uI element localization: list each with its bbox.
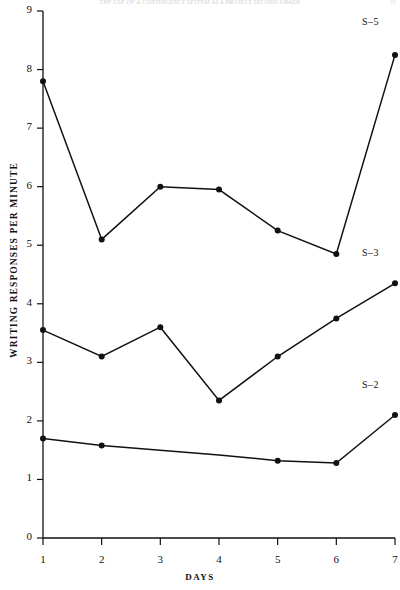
y-tick-label-3: 3 xyxy=(14,354,32,366)
data-point-S-3-day-7 xyxy=(392,280,398,286)
y-tick-label-5: 5 xyxy=(14,237,32,249)
data-point-S-3-day-3 xyxy=(157,324,163,330)
data-point-S-2-day-2 xyxy=(99,443,105,449)
data-point-S-5-day-5 xyxy=(275,228,281,234)
y-tick-label-4: 4 xyxy=(14,296,32,308)
x-tick-label-2: 2 xyxy=(93,553,111,565)
x-tick-label-5: 5 xyxy=(269,553,287,565)
plot-area xyxy=(0,0,400,590)
y-tick-label-1: 1 xyxy=(14,471,32,483)
x-axis-label: DAYS xyxy=(0,572,400,582)
data-point-S-3-day-1 xyxy=(40,327,46,333)
data-point-S-2-day-6 xyxy=(333,460,339,466)
y-tick-label-2: 2 xyxy=(14,413,32,425)
data-point-S-2-day-7 xyxy=(392,412,398,418)
y-tick-label-6: 6 xyxy=(14,179,32,191)
y-tick-label-9: 9 xyxy=(14,3,32,15)
data-point-S-5-day-4 xyxy=(216,187,222,193)
data-point-S-5-day-3 xyxy=(157,184,163,190)
x-tick-label-3: 3 xyxy=(151,553,169,565)
x-tick-label-4: 4 xyxy=(210,553,228,565)
data-point-S-3-day-5 xyxy=(275,354,281,360)
data-point-S-3-day-6 xyxy=(333,315,339,321)
data-point-S-2-day-5 xyxy=(275,458,281,464)
series-label-S-3: S–3 xyxy=(362,247,379,258)
chart-figure: THE USE OF A CONTINGENCY SYSTEM AS A PRO… xyxy=(0,0,400,590)
series-line-S-3 xyxy=(43,283,395,400)
series-label-S-2: S–2 xyxy=(362,379,379,390)
data-point-S-5-day-1 xyxy=(40,78,46,84)
data-point-S-5-day-6 xyxy=(333,251,339,257)
y-tick-label-8: 8 xyxy=(14,62,32,74)
data-point-S-5-day-7 xyxy=(392,52,398,58)
x-tick-label-7: 7 xyxy=(386,553,400,565)
data-point-S-3-day-4 xyxy=(216,397,222,403)
data-point-S-3-day-2 xyxy=(99,354,105,360)
y-tick-label-7: 7 xyxy=(14,120,32,132)
data-point-S-5-day-2 xyxy=(99,236,105,242)
series-label-S-5: S–5 xyxy=(362,16,379,27)
series-line-S-5 xyxy=(43,55,395,254)
data-point-S-2-day-1 xyxy=(40,436,46,442)
series-line-S-2 xyxy=(43,415,395,463)
x-tick-label-1: 1 xyxy=(34,553,52,565)
x-tick-label-6: 6 xyxy=(327,553,345,565)
y-tick-label-0: 0 xyxy=(14,530,32,542)
